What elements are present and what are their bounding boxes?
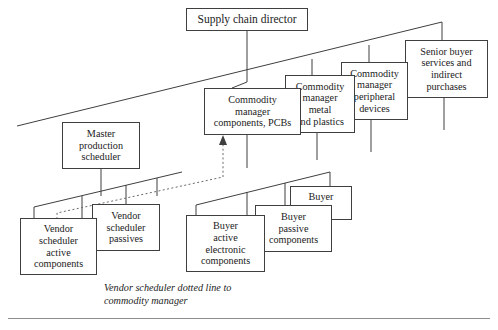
diagram-caption: Vendor scheduler dotted line to commodit… — [104, 281, 231, 307]
diagram-canvas: Supply chain director Commodity manager … — [0, 0, 498, 330]
box-label: Vendor scheduler active components — [34, 223, 83, 269]
box-buyer-active-electronic-components[interactable]: Buyer active electronic components — [186, 215, 265, 272]
box-label: Buyer active electronic components — [201, 220, 250, 266]
box-label: Supply chain director — [197, 13, 296, 26]
box-vendor-scheduler-passives[interactable]: Vendor scheduler passives — [92, 204, 160, 251]
box-vendor-scheduler-active-components[interactable]: Vendor scheduler active components — [20, 218, 97, 275]
box-label: Senior buyer services and indirect purch… — [420, 46, 472, 92]
box-label: Master production scheduler — [79, 128, 123, 163]
box-supply-chain-director[interactable]: Supply chain director — [186, 8, 308, 31]
box-label: Buyer passive components — [269, 211, 318, 246]
box-label: Commodity manager metal and plastics — [296, 81, 345, 127]
dotted-link-arrowhead — [219, 135, 227, 145]
box-commodity-manager-components-pcbs[interactable]: Commodity manager components, PCBs — [204, 88, 301, 135]
box-label: Vendor scheduler passives — [106, 210, 145, 245]
box-label: Commodity manager peripheral devices — [350, 68, 399, 114]
bottom-divider — [8, 318, 490, 319]
box-label: Commodity manager components, PCBs — [214, 94, 292, 129]
box-master-production-scheduler[interactable]: Master production scheduler — [62, 122, 140, 169]
box-senior-buyer-services-indirect-purchases[interactable]: Senior buyer services and indirect purch… — [405, 40, 488, 98]
box-buyer-passive-components[interactable]: Buyer passive components — [255, 205, 332, 252]
